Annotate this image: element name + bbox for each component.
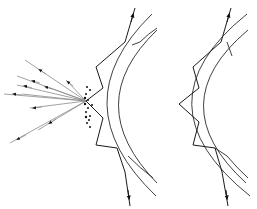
left-panel [4, 8, 157, 206]
left-outer-arc [107, 14, 156, 196]
left-ray-arrow-in [131, 15, 133, 22]
scattered-rays [4, 60, 86, 143]
optics-diagram-svg [0, 0, 257, 209]
diagram [0, 0, 257, 209]
left-zigzag-ray [86, 8, 135, 206]
right-inner-arc [203, 30, 248, 183]
right-panel [179, 8, 250, 206]
left-shell-tail-bottom [128, 156, 153, 178]
right-zigzag-ray [179, 8, 231, 206]
left-inner-arc [119, 30, 158, 183]
right-shell-tail-bottom [215, 148, 248, 178]
right-ray-arrow-in [227, 15, 229, 22]
left-shell-tail-top [132, 28, 157, 45]
